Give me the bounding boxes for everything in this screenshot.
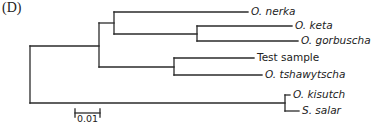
taxon-o-kisutch: O. kisutch bbox=[293, 89, 345, 100]
taxon-o-nerka: O. nerka bbox=[251, 6, 295, 17]
taxon-o-keta: O. keta bbox=[295, 20, 333, 31]
taxon-s-salar: S. salar bbox=[302, 105, 341, 116]
taxon-test-sample: Test sample bbox=[257, 52, 319, 63]
taxon-o-gorbuscha: O. gorbuscha bbox=[301, 35, 371, 46]
taxon-o-tshawytscha: O. tshawytscha bbox=[265, 69, 345, 80]
scale-bar-label: 0.01 bbox=[77, 114, 98, 124]
